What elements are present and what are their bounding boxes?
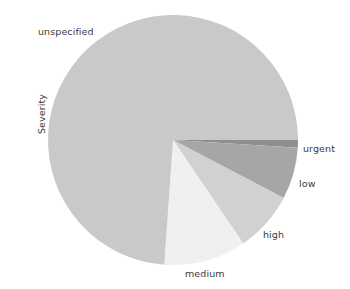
slice-label-unspecified: unspecified: [38, 26, 94, 37]
pie-chart-figure: Severity unspecified urgent low high med…: [0, 0, 350, 289]
pie-chart-canvas: [0, 0, 350, 289]
slice-label-medium: medium: [185, 268, 225, 279]
slice-label-high: high: [263, 229, 284, 240]
slice-label-low: low: [299, 178, 316, 189]
slice-label-urgent: urgent: [303, 143, 335, 154]
pie-slice-group: [48, 15, 298, 265]
